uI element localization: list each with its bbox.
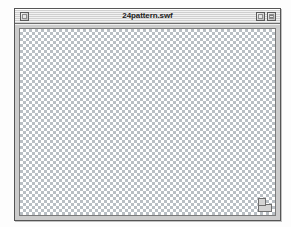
resize-grip-block-upper — [258, 198, 266, 206]
window-body — [15, 24, 280, 220]
window-titlebar[interactable]: 24pattern.swf — [15, 9, 280, 24]
content-frame[interactable] — [19, 28, 276, 216]
collapse-box-icon[interactable] — [267, 12, 276, 21]
window-title: 24pattern.swf — [15, 11, 280, 21]
window-title-label: 24pattern.swf — [117, 11, 177, 20]
zoom-box-inner — [258, 14, 263, 19]
application-window[interactable]: 24pattern.swf — [14, 8, 281, 221]
collapse-box-inner — [269, 14, 274, 19]
zoom-box-icon[interactable] — [256, 12, 265, 21]
transparency-checkerboard-canvas[interactable] — [20, 29, 275, 215]
resize-grip-icon[interactable] — [258, 198, 272, 212]
desktop-background: 24pattern.swf — [0, 0, 291, 227]
